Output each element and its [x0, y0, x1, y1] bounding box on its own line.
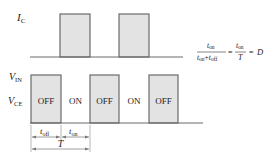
on-label-1: ON [69, 96, 82, 106]
formula-denominator-1: ton+toff [197, 53, 217, 62]
ic-label: IC [16, 11, 26, 25]
off-label-2: OFF [96, 96, 113, 106]
timing-dimensions: toff ton T [31, 125, 90, 152]
ton-label: ton [69, 126, 77, 137]
formula-numerator-2: ton [236, 41, 244, 50]
duty-cycle-formula: ton ton+toff = ton T = D [197, 41, 264, 62]
formula-equals-2: = [249, 48, 254, 57]
formula-numerator-1: ton [207, 41, 215, 50]
formula-equals-1: = [228, 48, 233, 57]
arrowhead-icon [85, 136, 89, 139]
vce-waveform: VIN VCE OFF ON OFF ON OFF [8, 71, 203, 123]
off-label-3: OFF [155, 96, 172, 106]
arrowhead-icon [32, 136, 36, 139]
arrowhead-icon [85, 148, 89, 151]
ic-waveform: IC [16, 11, 183, 57]
ic-pulse-1 [60, 14, 90, 57]
vin-label: VIN [9, 71, 22, 83]
formula-denominator-2: T [238, 53, 243, 62]
off-label-1: OFF [38, 96, 55, 106]
period-label: T [58, 138, 65, 149]
ic-pulse-2 [119, 14, 149, 57]
duty-cycle-diagram: IC VIN VCE OFF ON OFF ON OFF toff ton T [0, 0, 273, 167]
on-label-2: ON [128, 96, 141, 106]
arrowhead-icon [32, 148, 36, 151]
formula-result: D [256, 47, 264, 57]
toff-label: toff [40, 126, 49, 137]
vce-label: VCE [8, 95, 22, 107]
